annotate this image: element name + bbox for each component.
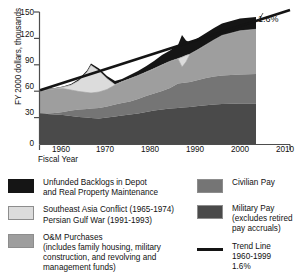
legend-item-unfunded-backlogs: Unfunded Backlogs in Depot and Real Prop… xyxy=(8,178,193,198)
medium-gray-swatch xyxy=(8,234,34,248)
trend-percent-annotation: 1.6% xyxy=(258,14,279,24)
legend-line: O&M Purchases xyxy=(43,233,161,243)
dark-gray-swatch xyxy=(197,179,223,193)
x-tick-1980: 1980 xyxy=(133,145,167,154)
x-tick-1970: 1970 xyxy=(88,145,122,154)
x-tick-1990: 1990 xyxy=(178,145,212,154)
legend-item-trend-line: Trend Line 1960-1999 1.6% xyxy=(197,242,306,273)
x-axis-label: Fiscal Year xyxy=(38,155,78,164)
trend-line-swatch xyxy=(197,248,223,251)
legend-column-left: Unfunded Backlogs in Depot and Real Prop… xyxy=(8,178,193,277)
legend-label-trend-line: Trend Line 1960-1999 1.6% xyxy=(232,242,271,273)
x-tick-2000: 2000 xyxy=(223,145,257,154)
legend-item-om-purchases: O&M Purchases (includes family housing, … xyxy=(8,233,193,274)
legend-column-right: Civilian Pay Military Pay (excludes reti… xyxy=(197,178,306,277)
legend-label-unfunded-backlogs: Unfunded Backlogs in Depot and Real Prop… xyxy=(43,178,158,198)
legend-label-conflict-spending: Southeast Asia Conflict (1965-1974) Pers… xyxy=(43,205,174,225)
legend-line: Military Pay xyxy=(232,204,293,214)
legend-line: Civilian Pay xyxy=(232,178,275,188)
legend-label-om-purchases: O&M Purchases (includes family housing, … xyxy=(43,233,161,274)
plot-area xyxy=(0,0,306,162)
legend-line: pay accruals) xyxy=(232,224,293,234)
legend-line: (includes family housing, military xyxy=(43,243,161,253)
black-swatch xyxy=(8,179,34,193)
legend-label-military-pay: Military Pay (excludes retired pay accru… xyxy=(232,204,293,235)
legend-line: Unfunded Backlogs in Depot xyxy=(43,178,158,188)
light-gray-swatch xyxy=(8,206,34,220)
legend-line: Persian Gulf War (1991-1993) xyxy=(43,216,174,226)
chart-legend: Unfunded Backlogs in Depot and Real Prop… xyxy=(0,178,306,277)
legend-line: Southeast Asia Conflict (1965-1974) xyxy=(43,205,174,215)
x-tick-2010: 2010 xyxy=(268,145,302,154)
legend-line: 1.6% xyxy=(232,262,271,272)
stacked-area-chart: FY 2000 dollars, thousands 150 120 90 60… xyxy=(0,0,306,162)
legend-line: management funds) xyxy=(43,263,161,273)
legend-label-civilian-pay: Civilian Pay xyxy=(232,178,275,188)
legend-item-civilian-pay: Civilian Pay xyxy=(197,178,306,193)
x-tick-1960: 1960 xyxy=(44,145,78,154)
chart-page: FY 2000 dollars, thousands 150 120 90 60… xyxy=(0,0,306,277)
legend-item-military-pay: Military Pay (excludes retired pay accru… xyxy=(197,204,306,235)
legend-line: construction, and revolving and xyxy=(43,253,161,263)
legend-line: Trend Line xyxy=(232,242,271,252)
legend-item-conflict-spending: Southeast Asia Conflict (1965-1974) Pers… xyxy=(8,205,193,225)
legend-line: and Real Property Maintenance xyxy=(43,188,158,198)
legend-line: (excludes retired xyxy=(232,214,293,224)
darker-gray-swatch xyxy=(197,205,223,219)
legend-line: 1960-1999 xyxy=(232,252,271,262)
